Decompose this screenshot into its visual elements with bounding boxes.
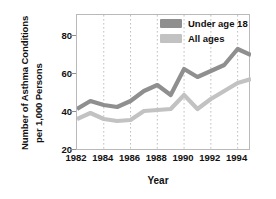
series-line-all-ages	[77, 79, 251, 121]
y-tick-label-80: 80	[50, 30, 72, 41]
series-lines	[77, 49, 251, 121]
y-axis-ticks: 80 60 40 20	[46, 0, 72, 199]
y-tick-label-40: 40	[50, 106, 72, 117]
x-axis-title: Year	[0, 175, 276, 186]
series-line-under-age-18	[77, 49, 251, 109]
x-tick-label-1994: 1994	[220, 152, 254, 163]
legend-item-under-age-18: Under age 18	[160, 17, 248, 29]
legend-label-under-age-18: Under age 18	[188, 18, 248, 29]
legend-swatch-all-ages	[160, 34, 182, 43]
y-axis-title-line2: per 1,000 Persons	[33, 63, 44, 143]
legend-swatch-under-age-18	[160, 19, 182, 28]
asthma-line-chart: Number of Asthma Conditions per 1,000 Pe…	[0, 0, 276, 199]
legend-item-all-ages: All ages	[160, 32, 248, 44]
legend-label-all-ages: All ages	[188, 33, 224, 44]
y-axis-title-line1: Number of Asthma Conditions	[19, 16, 30, 150]
chart-legend: Under age 18 All ages	[160, 17, 248, 47]
y-tick-label-60: 60	[50, 68, 72, 79]
